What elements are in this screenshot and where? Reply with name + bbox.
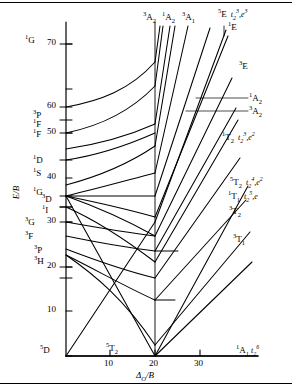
letter-1D: D — [36, 155, 43, 165]
subsym-3A1-top: 1 — [192, 17, 195, 24]
letter-3G: G — [28, 217, 35, 227]
subsym-3A2: 2 — [259, 111, 262, 118]
top-label-3A2: 3A2 — [143, 11, 156, 24]
curve-1G-low — [66, 146, 155, 185]
sym-1E-top: E — [231, 22, 237, 32]
sym-5E-top: E — [221, 9, 227, 19]
free-ion-term-5D: 5D — [40, 344, 50, 355]
curve-3T1-high — [155, 262, 252, 356]
free-ion-term-3G: 3G — [25, 216, 35, 227]
letter-3P-b: P — [37, 245, 42, 255]
curve-3Ea-low — [66, 236, 155, 251]
letter-1F-b: F — [36, 129, 41, 139]
subsym-3A2-top: 2 — [153, 17, 156, 24]
y-major-ticks — [66, 44, 72, 356]
x-tick-10: 10 — [104, 359, 113, 368]
free-ion-term-1S: 1S — [33, 167, 41, 178]
top-label-5E: 5E t23,e3 — [218, 8, 248, 21]
y-tick-20: 20 — [47, 261, 56, 270]
right-label-1T1: 1T1 t25,e — [228, 190, 258, 203]
right-label-1T2: 1T2 t23,e2 — [222, 131, 255, 144]
tanabe-sugano-figure: E/B 70 60 50 40 30 20 10 1G 3P 1F 1F 1D … — [0, 0, 292, 388]
curve-3T1b-low — [66, 249, 155, 278]
curve-1D-low — [66, 124, 155, 149]
subsym-1A2-top: 2 — [172, 17, 175, 24]
x-axis-tail: /B — [146, 370, 154, 380]
letter-3H: H — [37, 256, 44, 266]
config-5E-top: t23,e3 — [227, 10, 248, 19]
free-ion-term-1D: 1D — [33, 154, 43, 165]
y-tick-40: 40 — [47, 172, 56, 181]
right-label-3T2: 3T2 — [229, 205, 241, 218]
top-label-1A2: 1A2 — [162, 11, 175, 24]
right-label-5T2: 5T2 t24,e2 — [230, 176, 263, 189]
curve-3A1-high — [155, 28, 210, 196]
letter-5D: D — [43, 345, 50, 355]
curve-5E-low — [66, 222, 155, 356]
letter-3D: D — [45, 194, 52, 204]
letter-3F: F — [28, 231, 33, 241]
right-label-3T1: 3T1 — [233, 233, 245, 246]
y-tick-60: 60 — [47, 101, 56, 110]
top-label-1E: 1E — [228, 21, 237, 32]
curve-3T2a-low — [66, 255, 155, 300]
curve-upper-a — [155, 26, 170, 124]
y-tick-50: 50 — [47, 127, 56, 136]
letter-1I: I — [45, 205, 48, 215]
letter-1S: S — [36, 168, 41, 178]
right-label-3E: 3E — [239, 60, 248, 71]
right-label-3A2: 3A2 — [249, 105, 262, 118]
y-tick-70: 70 — [47, 38, 56, 47]
config-1A1: t26 — [249, 346, 259, 355]
curve-1A1-low — [66, 196, 155, 356]
x-tick-30: 30 — [194, 359, 203, 368]
subsym-3T2: 2 — [238, 211, 241, 218]
subsym-5T2-ground: 2 — [115, 348, 118, 355]
y-tick-30: 30 — [47, 216, 56, 225]
subsym-1A2: 2 — [259, 98, 262, 105]
curve-1F-low — [66, 86, 155, 133]
free-ion-term-1F-b: 1F — [33, 128, 41, 139]
curve-3P-low — [66, 62, 155, 107]
x-axis-title: ΔO/B — [136, 371, 154, 382]
subsym-3T1: 1 — [242, 239, 245, 246]
interior-label-5T2: 5T2 — [106, 342, 118, 355]
y-axis-title: E/B — [12, 173, 21, 213]
config-5T2: t24,e2 — [242, 178, 263, 187]
curve-3E-high — [155, 78, 232, 236]
config-1T1: t25,e — [240, 192, 258, 201]
curve-1A2a-low — [66, 173, 155, 196]
curve-3T2-high — [155, 232, 250, 345]
y-tick-10: 10 — [47, 305, 56, 314]
sym-3E: E — [242, 61, 248, 71]
free-ion-term-1I: 1I — [42, 204, 48, 215]
letter-1G: G — [28, 35, 35, 45]
top-label-3A1: 3A1 — [182, 11, 195, 24]
free-ion-term-3H: 3H — [34, 255, 44, 266]
free-ion-term-1G: 1G — [25, 34, 35, 45]
right-label-1A1: 1A1 t26 — [236, 344, 259, 357]
config-1T2: t23,e2 — [234, 133, 255, 142]
free-ion-term-3F: 3F — [25, 230, 33, 241]
x-tick-20: 20 — [149, 359, 158, 368]
